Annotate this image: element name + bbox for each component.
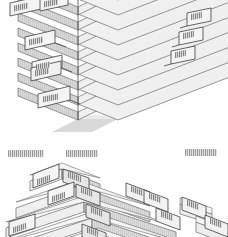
- figure-canvas: [0, 0, 228, 237]
- column-header-3: [185, 149, 217, 156]
- corner-panel-group: [0, 163, 228, 237]
- bottom-isometric-stack: [0, 160, 228, 237]
- column-header-1: [8, 150, 44, 157]
- ground-shadow: [52, 119, 118, 132]
- column-header-2: [66, 150, 98, 157]
